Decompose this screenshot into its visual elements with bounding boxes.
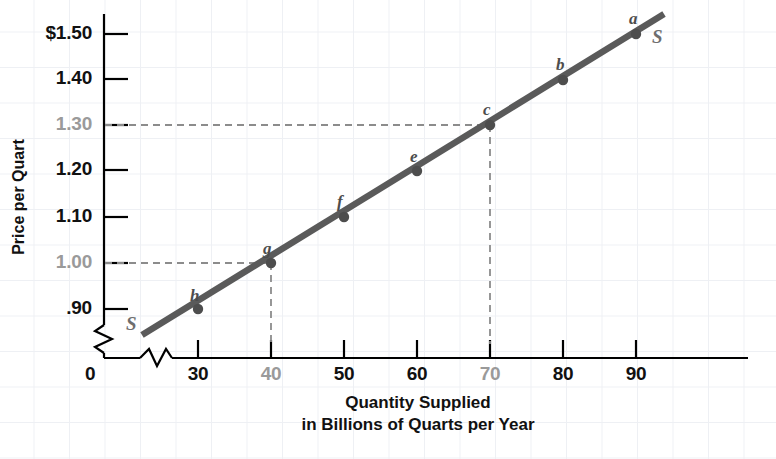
data-point-g bbox=[266, 258, 276, 268]
point-label-c: c bbox=[483, 100, 491, 120]
point-label-f: f bbox=[337, 192, 343, 212]
x-axis-title-line2: in Billions of Quarts per Year bbox=[238, 414, 598, 436]
point-label-h: h bbox=[190, 286, 199, 306]
curve-label-end: S bbox=[652, 26, 663, 48]
ytick-label-1-50: $1.50 bbox=[6, 22, 92, 44]
point-label-g: g bbox=[263, 239, 272, 259]
data-point-f bbox=[339, 212, 349, 222]
data-point-a bbox=[631, 29, 641, 39]
supply-curve-chart: $1.50 1.40 1.30 1.20 1.10 1.00 .90 0 30 … bbox=[0, 0, 776, 459]
xtick-label-40: 40 bbox=[241, 363, 301, 385]
plot-area bbox=[0, 0, 776, 459]
y-tick-marks bbox=[104, 34, 128, 309]
point-label-a: a bbox=[629, 9, 638, 29]
x-tick-marks bbox=[198, 340, 636, 358]
y-axis-title: Price per Quart bbox=[10, 117, 28, 277]
point-label-e: e bbox=[410, 147, 418, 167]
xtick-label-50: 50 bbox=[314, 363, 374, 385]
y-axis-break-zigzag bbox=[95, 325, 112, 353]
origin-label: 0 bbox=[85, 363, 95, 385]
point-label-b: b bbox=[556, 55, 565, 75]
x-axis-title-line1: Quantity Supplied bbox=[238, 392, 598, 414]
xtick-label-90: 90 bbox=[606, 363, 666, 385]
ytick-label-1-40: 1.40 bbox=[6, 67, 92, 89]
data-point-e bbox=[412, 166, 422, 176]
xtick-label-80: 80 bbox=[533, 363, 593, 385]
xtick-label-30: 30 bbox=[168, 363, 228, 385]
x-axis-title: Quantity Supplied in Billions of Quarts … bbox=[238, 392, 598, 437]
curve-label-start: S bbox=[126, 313, 137, 335]
data-point-b bbox=[558, 75, 568, 85]
ytick-label-0-90: .90 bbox=[6, 297, 92, 319]
data-point-c bbox=[485, 120, 495, 130]
supply-curve-line bbox=[142, 14, 664, 335]
xtick-label-60: 60 bbox=[387, 363, 447, 385]
xtick-label-70: 70 bbox=[460, 363, 520, 385]
